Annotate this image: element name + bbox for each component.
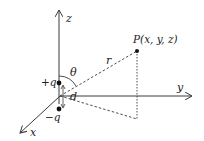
r-label: r xyxy=(106,54,112,67)
positive-charge xyxy=(57,81,62,86)
y-axis-label: y xyxy=(176,81,184,94)
theta-label: θ xyxy=(70,66,77,79)
negative-charge-label: −q xyxy=(45,111,61,123)
d-label: d xyxy=(70,90,77,103)
dipole-diagram: z y x θ r d +q −q P(x, y, z) xyxy=(0,0,204,141)
x-axis-label: x xyxy=(30,126,37,139)
point-p-label: P(x, y, z) xyxy=(132,33,178,45)
positive-charge-label: +q xyxy=(41,76,57,88)
z-axis-label: z xyxy=(65,12,72,25)
point-p xyxy=(135,49,139,53)
